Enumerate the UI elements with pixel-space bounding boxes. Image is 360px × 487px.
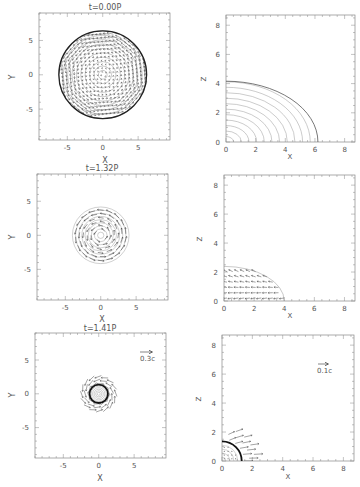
x-tick-label: 6 xyxy=(313,146,318,154)
x-tick-label: 2 xyxy=(253,146,257,154)
plot-frame xyxy=(222,335,354,461)
y-tick-label: 5 xyxy=(25,357,29,365)
x-tick-label: 0 xyxy=(100,144,104,152)
x-tick-label: 2 xyxy=(252,305,256,313)
x-tick-label: 5 xyxy=(136,144,140,152)
x-tick-label: -5 xyxy=(60,462,67,470)
y-tick-label: -5 xyxy=(24,266,31,274)
plot-content xyxy=(222,266,284,301)
y-tick-label: 2 xyxy=(212,429,216,437)
xlabel-top-left: X xyxy=(102,156,108,165)
xlabel-top-right: X xyxy=(288,153,293,161)
reference-label-left: 0.3c xyxy=(140,355,155,363)
title-middle-left: t=1.32P xyxy=(86,164,119,173)
y-tick-label: 0 xyxy=(25,390,29,398)
panel-top-left: -50550-5 xyxy=(26,13,170,152)
x-tick-label: 8 xyxy=(342,146,346,154)
x-tick-label: 5 xyxy=(134,304,138,312)
y-tick-label: 0 xyxy=(212,458,216,466)
x-tick-label: 0 xyxy=(98,304,102,312)
title-top-left: t=0.00P xyxy=(89,3,122,12)
panel-top-right: 0246802468 xyxy=(216,15,355,154)
ylabel-top-left: Y xyxy=(8,74,17,80)
x-tick-label: 0 xyxy=(96,462,100,470)
y-tick-label: 6 xyxy=(216,51,221,59)
plot-frame xyxy=(226,15,355,142)
x-tick-label: 4 xyxy=(282,305,287,313)
xlabel-middle-left: X xyxy=(99,315,105,324)
ylabel-top-right: Z xyxy=(200,76,208,81)
plot-content xyxy=(81,376,117,412)
y-tick-label: 2 xyxy=(214,269,218,277)
x-tick-label: 6 xyxy=(311,465,316,473)
y-tick-label: 4 xyxy=(214,240,219,248)
y-tick-label: 8 xyxy=(216,22,220,30)
y-tick-label: 0 xyxy=(216,139,220,147)
plot-content xyxy=(59,31,147,119)
y-tick-label: 5 xyxy=(29,37,33,45)
ylabel-middle-left: Y xyxy=(8,234,17,240)
y-tick-label: 0 xyxy=(29,71,33,79)
x-tick-label: 8 xyxy=(341,465,345,473)
x-tick-label: 5 xyxy=(132,462,136,470)
plot-content xyxy=(226,81,318,142)
y-tick-label: -5 xyxy=(22,424,29,432)
title-bottom-left: t=1.41P xyxy=(84,324,117,333)
plot-content xyxy=(222,429,263,462)
x-tick-label: 4 xyxy=(280,465,285,473)
y-tick-label: 0 xyxy=(214,298,218,306)
ylabel-bottom-right: Z xyxy=(195,396,203,401)
panel-bottom-right: 0246802468 xyxy=(212,335,354,473)
ylabel-bottom-left: Y xyxy=(8,392,17,398)
x-tick-label: 6 xyxy=(312,305,317,313)
x-tick-label: 0 xyxy=(220,465,224,473)
y-tick-label: 4 xyxy=(212,400,217,408)
panel-middle-left: -50550-5 xyxy=(24,174,168,312)
x-tick-label: -5 xyxy=(62,304,69,312)
x-tick-label: 2 xyxy=(250,465,254,473)
x-tick-label: 0 xyxy=(224,146,228,154)
x-tick-label: 8 xyxy=(342,305,346,313)
y-tick-label: 0 xyxy=(27,232,31,240)
plot-frame xyxy=(37,174,168,300)
xlabel-middle-right: X xyxy=(288,312,293,320)
y-tick-label: 6 xyxy=(212,371,217,379)
figure: -50550-5 0246802468 -50550-5 0246802468 … xyxy=(0,0,360,487)
x-tick-label: -5 xyxy=(64,144,71,152)
ylabel-middle-right: Z xyxy=(196,236,204,241)
plot-content xyxy=(72,207,129,264)
y-tick-label: 6 xyxy=(214,211,219,219)
y-tick-label: -5 xyxy=(26,106,33,114)
panel-bottom-left: -50550-5 xyxy=(22,333,166,470)
y-tick-label: 8 xyxy=(212,342,216,350)
y-tick-label: 2 xyxy=(216,109,220,117)
y-tick-label: 4 xyxy=(216,80,221,88)
y-tick-label: 8 xyxy=(214,182,218,190)
y-tick-label: 5 xyxy=(27,198,31,206)
reference-label-right: 0.1c xyxy=(317,367,332,375)
x-tick-label: 0 xyxy=(222,305,226,313)
panel-middle-right: 0246802468 xyxy=(214,175,355,313)
xlabel-bottom-right: X xyxy=(286,473,291,481)
xlabel-bottom-left: X xyxy=(97,474,103,483)
